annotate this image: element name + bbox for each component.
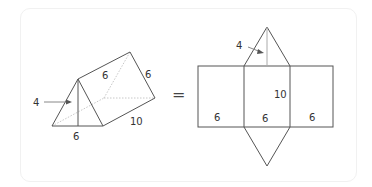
prism-net bbox=[198, 27, 333, 166]
net-right-face-label: 6 bbox=[309, 112, 315, 123]
net-length-label: 10 bbox=[274, 89, 287, 100]
net-height-label: 4 bbox=[236, 40, 242, 51]
equals-sign: = bbox=[172, 85, 185, 104]
prism-base-label: 6 bbox=[73, 131, 79, 142]
prism-net-diagram: 4 6 6 6 10 = 4 10 6 6 6 bbox=[0, 0, 372, 187]
net-left-face-label: 6 bbox=[214, 112, 220, 123]
triangular-prism bbox=[44, 52, 155, 126]
prism-slant-front-label: 6 bbox=[102, 70, 108, 81]
prism-length-label: 10 bbox=[130, 116, 143, 127]
prism-height-label: 4 bbox=[33, 97, 39, 108]
prism-slant-back-label: 6 bbox=[145, 69, 151, 80]
net-middle-face-label: 6 bbox=[262, 113, 268, 124]
